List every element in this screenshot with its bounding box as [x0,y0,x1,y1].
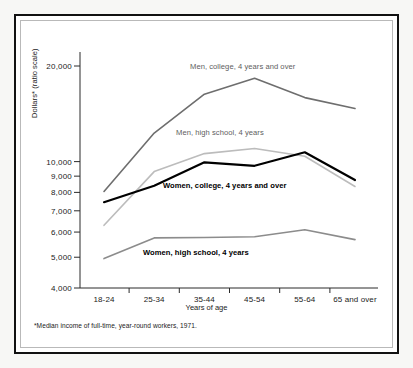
x-tick-label: 25-34 [144,295,165,304]
series-label-1: Men, high school, 4 years [176,128,264,137]
y-tick-label: 8,000 [26,188,72,197]
series-label-0: Men, college, 4 years and over [190,62,295,71]
x-tick-label: 65 and over [333,295,376,304]
y-tick-label: 9,000 [26,172,72,181]
y-tick-label: 7,000 [26,206,72,215]
y-tick-label: 4,000 [26,284,72,293]
x-axis-title: Years of age [0,303,413,312]
y-tick-label: 6,000 [26,228,72,237]
series-label-3: Women, high school, 4 years [143,248,249,257]
figure-canvas: Dollars* (ratio scale) Years of age 20,0… [0,0,413,368]
series-lines-group [104,78,355,258]
y-tick-label: 10,000 [26,157,72,166]
y-tick-label: 20,000 [26,62,72,71]
y-tick-label: 5,000 [26,253,72,262]
chart-footnote: *Median income of full-time, year-round … [34,322,197,329]
x-tick-label: 18-24 [94,295,115,304]
series-label-2: Women, college, 4 years and over [163,181,286,190]
x-tick-label: 55-64 [294,295,315,304]
chart-plot-area: Dollars* (ratio scale) Years of age 20,0… [0,0,413,368]
x-tick-label: 35-44 [194,295,215,304]
series-line-2 [104,152,355,202]
x-tick-label: 45-54 [244,295,265,304]
